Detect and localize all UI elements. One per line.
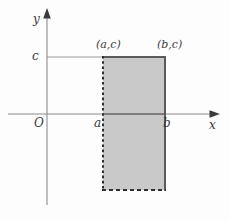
origin-label: O: [34, 117, 44, 129]
x-tick-label-b: b: [163, 117, 171, 129]
point-label-top-right: (b,c): [157, 39, 182, 50]
x-axis-label: x: [209, 119, 216, 131]
y-axis-arrowhead: [43, 8, 51, 19]
shaded-rectangle-fill: [103, 57, 165, 190]
y-axis-label: y: [33, 13, 40, 25]
x-tick-label-a: a: [94, 117, 101, 129]
figure-canvas: [0, 0, 230, 222]
coordinate-plane-figure: y x O c a b (a,c) (b,c): [0, 0, 230, 222]
point-label-top-left: (a,c): [96, 39, 121, 50]
x-axis-arrowhead: [210, 110, 221, 118]
y-tick-label-c: c: [32, 50, 39, 62]
